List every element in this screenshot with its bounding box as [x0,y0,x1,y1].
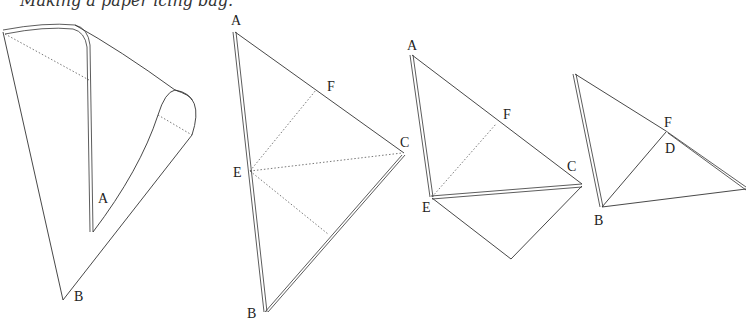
label-c: C [567,159,576,174]
label-a: A [407,38,418,53]
label-b: B [594,213,603,228]
figure-2-triangle: A F C E B [231,13,409,321]
figure-1-cone: A B [3,24,196,304]
label-a: A [98,191,109,206]
label-e: E [422,200,431,215]
label-f: F [327,79,335,94]
label-f: F [664,115,672,130]
label-a: A [231,13,242,28]
label-c: C [400,135,409,150]
label-e: E [233,165,242,180]
label-b: B [247,306,256,321]
diagram-canvas: A B A F C E B A F C [0,0,748,323]
label-b: B [74,289,83,304]
figure-4-folded: F D B [573,74,746,228]
figure-3-folded: A F C E [407,38,582,259]
label-d: D [665,141,675,156]
label-f: F [503,107,511,122]
